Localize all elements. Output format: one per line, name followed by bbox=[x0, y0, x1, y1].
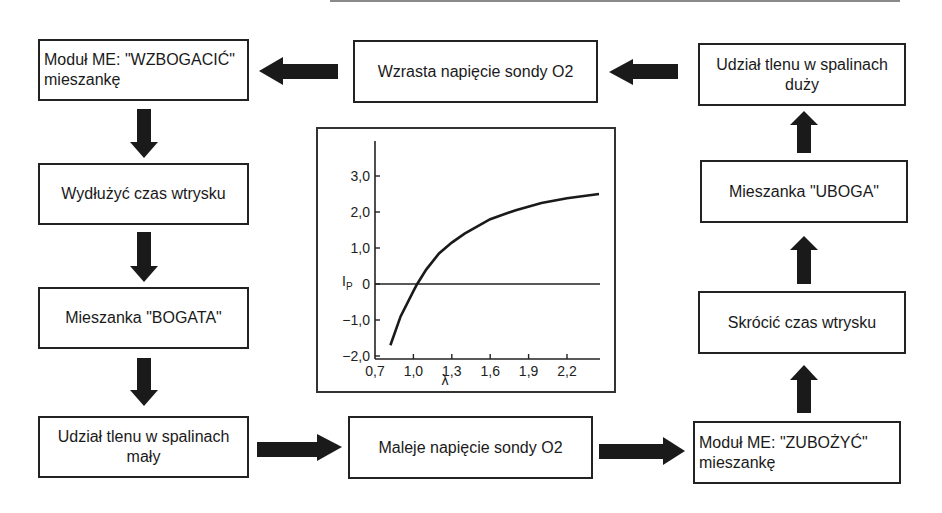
ip-curve bbox=[390, 194, 599, 345]
arrow-down-icon bbox=[130, 109, 158, 158]
x-tick-label: 1,9 bbox=[519, 363, 539, 379]
arrow-up-icon bbox=[790, 365, 818, 413]
arrow-left-icon bbox=[259, 57, 338, 85]
lambda-probe-chart: 3,02,01,00−1,0−2,0 0,71,01,31,61,92,2 IP… bbox=[316, 127, 616, 393]
arrow-right-icon bbox=[599, 437, 685, 465]
x-axis-label: λ bbox=[442, 372, 449, 388]
arrow-up-icon bbox=[790, 111, 818, 153]
chart-plot: 3,02,01,00−1,0−2,0 0,71,01,31,61,92,2 IP… bbox=[318, 129, 618, 395]
arrow-right-icon bbox=[257, 434, 342, 461]
x-tick-label: 1,0 bbox=[404, 363, 424, 379]
x-tick-label: 0,7 bbox=[365, 363, 385, 379]
y-tick-label: 0 bbox=[362, 276, 370, 292]
y-tick-label: 2,0 bbox=[351, 204, 371, 220]
arrow-up-icon bbox=[790, 236, 818, 284]
y-tick-label: 3,0 bbox=[351, 168, 371, 184]
y-tick-label: 1,0 bbox=[351, 240, 371, 256]
arrow-left-icon bbox=[609, 59, 678, 85]
arrow-down-icon bbox=[130, 232, 158, 282]
x-tick-label: 2,2 bbox=[557, 363, 577, 379]
y-tick-label: −2,0 bbox=[342, 348, 370, 364]
x-tick-label: 1,6 bbox=[480, 363, 500, 379]
y-tick-label: −1,0 bbox=[342, 312, 370, 328]
arrow-down-icon bbox=[130, 358, 158, 406]
y-axis-label: IP bbox=[342, 273, 353, 292]
